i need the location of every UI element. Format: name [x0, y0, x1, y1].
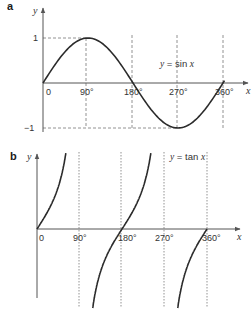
panel-a-sine-chart: a y x 1 −1 0 90° 180° 270° 360° y = sin … [7, 0, 251, 133]
panel-b-x-axis-name: x [236, 231, 242, 242]
panel-b-equation-label: y = tan x [169, 151, 206, 162]
panel-a-x-tick-0: 0 [46, 87, 51, 97]
panel-b-tangent-curve [37, 153, 207, 308]
panel-a-x-tick-270: 270° [169, 87, 188, 97]
panel-a-x-tick-90: 90° [80, 87, 94, 97]
panel-b-y-axis-name: y [26, 151, 32, 162]
figure: a y x 1 −1 0 90° 180° 270° 360° y = sin … [0, 0, 252, 314]
panel-b-x-tick-360: 360° [202, 233, 221, 243]
panel-a-x-axis-name: x [245, 85, 251, 96]
panel-b-guides [79, 152, 207, 308]
panel-b-x-tick-180: 180° [118, 233, 137, 243]
panel-a-equation-label: y = sin x [159, 58, 195, 69]
panel-a-y-tick-1: 1 [33, 33, 38, 43]
panel-a-y-tick-neg1: −1 [24, 123, 34, 133]
panel-b-x-tick-0: 0 [39, 233, 44, 243]
panel-b-tangent-chart: b y x 0 90° 180° 270° 360° y = tan x [10, 150, 242, 308]
panel-a-y-axis-name: y [32, 5, 38, 16]
panel-b-x-tick-90: 90° [73, 233, 87, 243]
panel-a-label: a [7, 0, 14, 12]
panel-b-x-tick-270: 270° [155, 233, 174, 243]
panel-b-label: b [10, 150, 17, 162]
